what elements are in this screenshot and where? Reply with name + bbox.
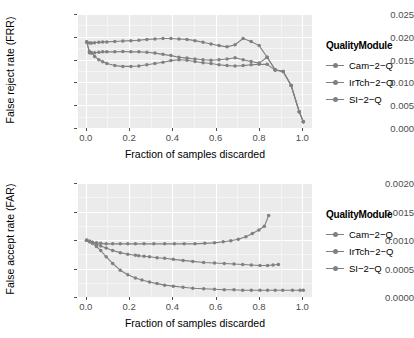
data-point [137,50,141,54]
data-point [265,63,269,66]
data-point [101,40,105,44]
frr-x-tick-label: 0.0 [66,132,106,143]
data-point [182,242,186,246]
frr-legend-item-irtch[interactable]: IrTch−2−Q [326,74,414,91]
frr-x-tick-label: 0.8 [239,132,279,143]
data-point [185,56,189,60]
data-point [249,60,253,64]
data-point [155,282,159,286]
data-point [140,278,144,282]
frr-x-tick-mark [302,128,303,131]
frr-legend-title: QualityModule [326,40,414,51]
far-x-tick-mark [86,297,87,300]
far-y-tick-mark [74,269,77,270]
data-point [223,262,227,266]
data-point [91,241,95,245]
far-y-tick-mark [74,240,77,241]
data-point [134,242,138,246]
data-point [153,37,157,41]
frr-x-tick-mark [259,128,260,131]
far-y-tick-label: 0.0020 [368,178,414,189]
data-point [126,242,130,246]
data-point [163,242,167,246]
far-x-tick-label: 0.8 [239,301,279,312]
data-point [93,51,97,55]
frr-legend-item-si[interactable]: SI−2−Q [326,91,414,108]
data-point [201,41,205,45]
data-point [119,268,123,272]
far-series-layer [78,183,312,297]
data-point [266,289,270,293]
grid-h [78,297,312,298]
data-point [163,257,167,261]
data-point [113,40,117,44]
far-legend-item-cam[interactable]: Cam−2−Q [326,226,414,243]
far-chart-block: False accept rate (FAR) 0.0020 0.0015 0.… [0,169,414,338]
data-point [267,214,271,218]
data-point [113,50,117,54]
data-point [169,59,173,63]
data-point [99,242,103,246]
line-marker-icon [326,263,344,275]
data-point [258,289,262,293]
data-point [249,63,253,66]
data-point [281,289,285,293]
far-x-tick-label: 0.2 [109,301,149,312]
data-point [250,289,254,293]
frr-y-tick-mark [74,60,77,61]
far-x-tick-mark [259,297,260,300]
data-point [134,276,138,280]
data-point [258,264,262,268]
frr-series-layer [78,14,312,128]
data-point [201,58,205,62]
data-point [298,289,302,293]
series-IrTch-2-Q [85,40,305,123]
data-point [137,64,141,68]
data-point [289,84,293,88]
data-point [163,283,167,287]
line-marker-icon [326,77,344,89]
data-point [241,37,245,41]
line-marker-icon [326,94,344,106]
data-point [213,288,217,292]
data-point [209,62,213,65]
frr-x-tick-label: 0.6 [196,132,236,143]
data-point [281,70,285,74]
frr-legend-item-cam[interactable]: Cam−2−Q [326,57,414,74]
series-Cam-2-Q [85,40,305,123]
far-legend-item-si[interactable]: SI−2−Q [326,260,414,277]
far-legend-item-irtch[interactable]: IrTch−2−Q [326,243,414,260]
data-point [232,262,236,266]
far-x-tick-mark [172,297,173,300]
data-point [273,289,277,293]
data-point [134,253,138,257]
data-point [169,37,173,41]
frr-x-tick-label: 0.4 [152,132,192,143]
data-point [202,287,206,291]
data-point [203,242,207,246]
data-point [148,280,152,284]
data-point [185,38,189,42]
data-point [137,38,141,42]
data-point [271,263,275,267]
frr-y-tick-label: 0.000 [368,123,414,134]
line-marker-icon [326,246,344,258]
data-point [213,241,217,245]
data-point [121,50,125,54]
data-point [181,285,185,289]
data-point [155,256,159,260]
data-point [129,50,133,54]
data-point [172,258,176,262]
data-point [121,39,125,43]
series-SI-2-Q [85,214,270,246]
data-point [217,58,221,62]
data-point [90,41,94,45]
data-point [101,60,105,64]
data-point [129,39,133,43]
data-point [241,64,245,67]
frr-x-tick-mark [86,128,87,131]
frr-x-tick-label: 1.0 [282,132,322,143]
far-x-tick-label: 0.4 [152,301,192,312]
data-point [177,37,181,41]
data-point [93,41,97,45]
